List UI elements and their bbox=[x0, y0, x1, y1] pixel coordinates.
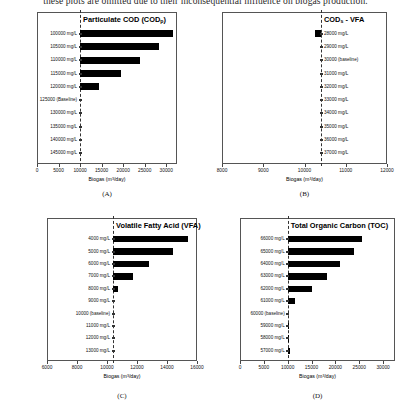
bar bbox=[288, 261, 340, 267]
category-tick bbox=[286, 350, 289, 352]
bar bbox=[288, 273, 327, 279]
x-tick-label: 30000 bbox=[369, 365, 397, 370]
category-tick bbox=[286, 275, 289, 277]
category-tick bbox=[286, 263, 289, 265]
x-tick bbox=[312, 361, 313, 364]
category-tick bbox=[286, 251, 289, 253]
category-tick bbox=[286, 313, 289, 315]
panel-letter-d: (D) bbox=[240, 392, 395, 400]
category-label: 62000 mg/L bbox=[260, 286, 284, 291]
bar bbox=[288, 248, 355, 254]
category-label: 64000 mg/L bbox=[260, 261, 284, 266]
x-tick bbox=[335, 361, 336, 364]
bar bbox=[288, 286, 312, 292]
category-label: 60000 (baseline) bbox=[250, 311, 284, 316]
category-tick bbox=[286, 288, 289, 290]
x-tick bbox=[264, 361, 265, 364]
category-label: 63000 mg/L bbox=[260, 273, 284, 278]
category-label: 59000 mg/L bbox=[260, 323, 284, 328]
category-tick bbox=[286, 325, 289, 327]
category-label: 58000 mg/L bbox=[260, 335, 284, 340]
x-tick bbox=[288, 361, 289, 364]
category-label: 61000 mg/L bbox=[260, 298, 284, 303]
x-tick bbox=[240, 361, 241, 364]
category-tick bbox=[286, 300, 289, 302]
category-tick bbox=[286, 337, 289, 339]
x-tick bbox=[383, 361, 384, 364]
x-tick bbox=[359, 361, 360, 364]
category-label: 66000 mg/L bbox=[260, 236, 284, 241]
panel-d: Total Organic Carbon (TOC)66000 mg/L6500… bbox=[0, 0, 411, 409]
bar bbox=[288, 236, 362, 242]
category-tick bbox=[286, 238, 289, 240]
category-label: 57000 mg/L bbox=[260, 348, 284, 353]
panel-title-d: Total Organic Carbon (TOC) bbox=[291, 221, 388, 230]
figure-page: these plots are omitted due to their inc… bbox=[0, 0, 411, 409]
category-label: 65000 mg/L bbox=[260, 249, 284, 254]
x-axis-title: Biogas (m3/day) bbox=[240, 373, 395, 379]
